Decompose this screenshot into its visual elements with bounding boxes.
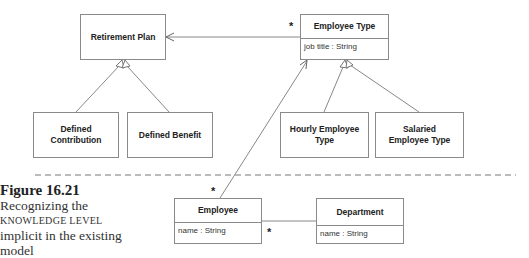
open-arrowhead-icon [300,60,307,69]
caption-line-3: implicit in the existing [0,228,150,243]
class-name: Employee Type [301,15,388,38]
generalization-definedbenefit [127,66,169,112]
class-department[interactable]: Department name : String [316,198,404,244]
caption-line-4: model [0,243,150,258]
class-defined-benefit[interactable]: Defined Benefit [127,112,213,158]
class-attribute: job title : String [301,38,388,59]
class-name: Defined Contribution [34,113,118,157]
caption-line-2: KNOWLEDGE LEVEL [0,213,150,228]
class-hourly-employee-type[interactable]: Hourly Employee Type [280,112,369,158]
figure-caption: Figure 16.21 Recognizing the KNOWLEDGE L… [0,182,150,258]
generalization-definedcontribution [76,66,119,112]
class-name: Salaried Employee Type [376,113,463,157]
class-retirement-plan[interactable]: Retirement Plan [80,14,166,60]
generalization-triangle-icon [122,60,130,68]
class-employee-type[interactable]: Employee Type job title : String [300,14,389,60]
class-name: Retirement Plan [81,15,165,59]
class-employee[interactable]: Employee name : String [174,198,262,244]
figure-number: Figure 16.21 [0,182,150,198]
caption-line-1: Recognizing the [0,198,150,213]
multiplicity-employee-top: * [211,185,215,197]
class-attribute: name : String [175,222,261,243]
multiplicity-employee-type: * [289,20,293,32]
multiplicity-employee-department: * [267,226,271,238]
class-defined-contribution[interactable]: Defined Contribution [33,112,119,158]
class-name: Employee [175,199,261,222]
class-name: Defined Benefit [128,113,212,157]
generalization-salariedemployeetype [350,65,419,112]
class-name: Hourly Employee Type [281,113,368,157]
class-attribute: name : String [317,225,403,243]
class-salaried-employee-type[interactable]: Salaried Employee Type [375,112,464,158]
generalization-hourlyemployeetype [324,67,343,112]
class-name: Department [317,199,403,225]
